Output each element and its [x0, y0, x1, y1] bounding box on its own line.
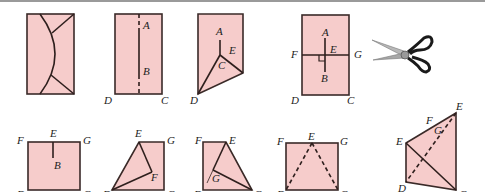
- label-e: E: [134, 127, 142, 139]
- figure-4-creased-rectangle: A E F G B D C: [290, 15, 362, 106]
- label-c: C: [340, 188, 348, 192]
- label-e: E: [228, 134, 236, 146]
- figure-1-cut-rectangle: [27, 14, 74, 94]
- figure-7-folded-square: E G F D C: [102, 127, 175, 192]
- label-d: D: [16, 188, 25, 192]
- label-e: E: [307, 130, 315, 142]
- label-f: F: [150, 171, 158, 183]
- label-g: G: [167, 134, 175, 146]
- label-g: G: [340, 135, 348, 147]
- label-f: F: [425, 114, 433, 126]
- label-d: D: [276, 188, 285, 192]
- figure-6-square: F E G B D C: [16, 127, 91, 192]
- label-g: G: [83, 134, 91, 146]
- figure-2-folded-rectangle: A B D C: [103, 14, 169, 106]
- figure-8-folded-shape: F E G D C: [193, 134, 262, 192]
- label-d: D: [290, 94, 299, 106]
- label-b: B: [143, 65, 150, 77]
- label-f: F: [276, 135, 284, 147]
- label-e-top: E: [455, 100, 463, 112]
- label-f: F: [290, 48, 298, 60]
- label-c: C: [161, 94, 169, 106]
- figure-3-folded-pentagon: A E C D: [189, 14, 243, 106]
- label-d: D: [102, 188, 111, 192]
- label-c: C: [218, 59, 226, 71]
- label-d: D: [189, 94, 198, 106]
- scissors-icon: [372, 37, 432, 72]
- paper-folding-diagram: A B D C A E C D A E F G B D C: [0, 0, 485, 192]
- label-g: G: [212, 172, 220, 184]
- label-e-left: E: [395, 135, 403, 147]
- label-d: D: [193, 188, 202, 192]
- label-f: F: [16, 134, 24, 146]
- label-e: E: [228, 44, 236, 56]
- label-b: B: [54, 159, 61, 171]
- label-c: C: [459, 188, 467, 192]
- label-e: E: [49, 127, 57, 139]
- label-g: G: [434, 124, 442, 136]
- label-f: F: [194, 134, 202, 146]
- label-c: C: [347, 94, 355, 106]
- label-a: A: [321, 26, 329, 38]
- label-d: D: [103, 94, 112, 106]
- label-a: A: [215, 25, 223, 37]
- label-a: A: [142, 19, 150, 31]
- figure-9-square-dashed-triangle: F E G D C: [276, 130, 348, 192]
- label-e: E: [329, 43, 337, 55]
- figure-10-quadrilateral: E F G E D C: [395, 100, 467, 192]
- label-c: C: [83, 188, 91, 192]
- label-d: D: [397, 182, 406, 192]
- label-g: G: [354, 48, 362, 60]
- label-c: C: [254, 188, 262, 192]
- label-c: C: [167, 188, 175, 192]
- label-b: B: [321, 72, 328, 84]
